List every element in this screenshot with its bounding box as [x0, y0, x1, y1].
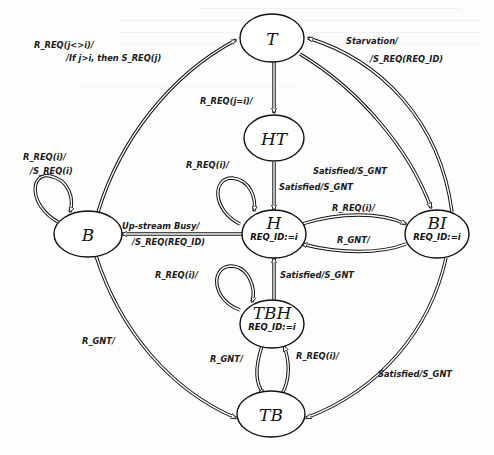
label-B-self-1: R_REQ(i)/ [23, 152, 67, 162]
label-TBH-to-H: Satisfied/S_GNT [280, 270, 355, 280]
label-T-to-BI: Satisfied/S_GNT [313, 166, 388, 176]
state-HT-label: HT [260, 129, 289, 149]
edge-B-to-TB [96, 256, 236, 418]
edge-B-self [35, 176, 71, 222]
edge-H-to-BI [302, 215, 406, 224]
state-BI: BI REQ_ID:=i [405, 210, 469, 258]
edge-TBH-self [217, 266, 253, 310]
state-H: H REQ_ID:=i [242, 210, 306, 258]
state-B: B [54, 211, 122, 257]
state-BI-sub: REQ_ID:=i [413, 232, 462, 242]
state-BI-label: BI [426, 213, 446, 233]
edge-BI-to-TB [306, 258, 446, 418]
label-TBH-to-TB: R_GNT/ [210, 354, 244, 364]
edge-BI-to-H [302, 244, 406, 252]
edge-H-self [218, 178, 255, 224]
label-B-to-T-2: /If j>i, then S_REQ(j) [65, 53, 161, 63]
label-B-to-TB: R_GNT/ [82, 336, 116, 346]
label-H-to-B-1: Up-stream Busy/ [122, 221, 200, 231]
label-B-self-2: /S_REQ(i) [29, 166, 73, 176]
state-B-label: B [81, 225, 95, 245]
label-BI-to-T-2: /S_REQ(REQ_ID) [369, 54, 443, 64]
state-diagram: T HT B H REQ_ID:=i BI REQ_ID:=i TBH REQ_… [0, 0, 494, 455]
state-T: T [240, 14, 304, 62]
state-H-sub: REQ_ID:=i [250, 232, 299, 242]
label-TB-to-TBH: R_REQ(i)/ [296, 351, 340, 361]
edge-TB-to-TBH [282, 346, 288, 394]
label-H-to-BI: R_REQ(i)/ [332, 203, 376, 213]
label-H-to-B-2: /S_REQ(REQ_ID) [131, 237, 205, 247]
state-H-label: H [266, 213, 283, 233]
state-T-label: T [266, 29, 279, 49]
state-TB: TB [237, 391, 305, 437]
edge-TBH-to-TB [257, 346, 264, 394]
state-TB-label: TB [259, 405, 283, 425]
label-HT-to-H: Satisfied/S_GNT [279, 182, 354, 192]
edge-B-to-T [98, 40, 236, 212]
label-H-self: R_REQ(i)/ [186, 160, 230, 170]
state-TBH: TBH REQ_ID:=i [240, 300, 304, 348]
label-BI-to-H: R_GNT/ [337, 235, 371, 245]
state-HT: HT [244, 115, 304, 161]
label-BI-to-T-1: Starvation/ [346, 36, 399, 46]
label-T-to-HT: R_REQ(j=i)/ [200, 96, 254, 106]
label-TBH-self: R_REQ(i)/ [155, 270, 199, 280]
label-BI-to-TB: Satisfied/S_GNT [378, 369, 453, 379]
label-B-to-T-1: R_REQ(j<>i)/ [34, 40, 95, 50]
state-TBH-sub: REQ_ID:=i [248, 322, 297, 332]
state-TBH-label: TBH [253, 303, 293, 323]
